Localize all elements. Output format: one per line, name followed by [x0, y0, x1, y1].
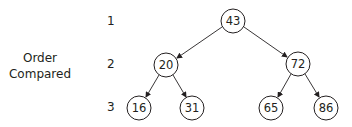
edge-43-20	[177, 27, 222, 58]
node-72-label: 72	[291, 57, 306, 71]
node-43-label: 43	[226, 14, 241, 28]
edge-43-72	[244, 27, 287, 57]
edge-20-31	[173, 75, 186, 97]
node-16-label: 16	[132, 101, 147, 115]
edge-72-86	[305, 74, 319, 97]
edge-20-16	[146, 75, 159, 97]
node-31-label: 31	[185, 101, 200, 115]
node-86-label: 86	[319, 101, 334, 115]
edge-72-65	[278, 74, 291, 97]
binary-search-tree: 43 20 72 16 31 65 86	[0, 0, 352, 127]
node-65-label: 65	[264, 101, 279, 115]
node-20-label: 20	[159, 58, 174, 72]
